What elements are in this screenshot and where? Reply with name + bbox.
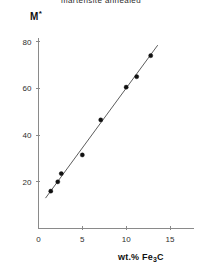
chart-figure: martensite annealed M* 20406080 051015 w… — [0, 0, 202, 275]
plot-area: 20406080 051015 — [0, 0, 202, 275]
x-axis-title-prefix: wt.% Fe — [118, 252, 153, 262]
x-tick-label: 5 — [80, 235, 85, 244]
data-point — [59, 172, 63, 176]
x-tick-label: 0 — [36, 235, 41, 244]
x-tick-label: 10 — [122, 235, 131, 244]
data-point — [56, 180, 60, 184]
y-tick-label: 20 — [23, 178, 32, 187]
y-axis-ticks: 20406080 — [23, 38, 40, 187]
data-point — [80, 153, 84, 157]
axes — [38, 38, 194, 229]
data-point — [99, 118, 103, 122]
x-axis-title-subscript: 3 — [153, 256, 157, 263]
y-tick-label: 60 — [23, 84, 32, 93]
data-point — [135, 75, 139, 79]
x-tick-label: 15 — [166, 235, 175, 244]
data-point — [124, 85, 128, 89]
data-point — [49, 189, 53, 193]
x-axis-title-suffix: C — [157, 252, 164, 262]
data-point — [149, 54, 153, 58]
y-tick-label: 80 — [23, 38, 32, 47]
x-axis-title: wt.% Fe3C — [118, 252, 164, 262]
y-tick-label: 40 — [23, 131, 32, 140]
